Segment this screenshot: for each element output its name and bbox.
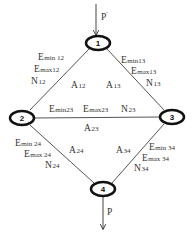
e34-emin-label: Emin 34	[149, 142, 175, 152]
edge-2-3	[34, 117, 160, 118]
e12-area-label: A12	[71, 80, 86, 90]
node-2: 2	[10, 111, 34, 125]
e13-area-label: A13	[106, 80, 121, 90]
e13-emin-label: Emin13	[121, 55, 146, 65]
svg-text:4: 4	[101, 185, 106, 194]
svg-text:3: 3	[170, 113, 175, 122]
e12-n-label: N12	[31, 76, 46, 86]
svg-text:1: 1	[96, 39, 101, 48]
load-label-bottom: P	[107, 207, 112, 217]
e13-n-label: N13	[146, 78, 161, 88]
e23-area-label: A23	[84, 123, 99, 133]
load-label-top: P'	[101, 10, 108, 22]
node-1: 1	[86, 36, 110, 50]
e34-area-label: A34	[116, 145, 131, 155]
e24-area-label: A24	[69, 145, 84, 155]
e23-emin-label: Emin23	[49, 104, 74, 114]
e24-emin-label: Emin 24	[15, 138, 41, 148]
e34-emax-label: Emax 34	[142, 153, 170, 163]
e24-emax-label: Emax 24	[24, 149, 52, 159]
e23-n-label: N23	[121, 104, 136, 114]
node-3: 3	[160, 110, 184, 124]
e34-n-label: N34	[134, 163, 149, 173]
truss-diagram: P' P 1 2 3 4 Emin 12 Emax12 N12 A12 Emin…	[0, 0, 194, 232]
node-4: 4	[91, 182, 115, 196]
e13-emax-label: Emax13	[131, 66, 157, 76]
e12-emin-label: Emin 12	[38, 52, 64, 62]
e24-n-label: N24	[45, 160, 60, 170]
e23-emax-label: Emax23	[83, 104, 109, 114]
e12-emax-label: Emax12	[34, 64, 60, 74]
svg-text:2: 2	[20, 114, 25, 123]
